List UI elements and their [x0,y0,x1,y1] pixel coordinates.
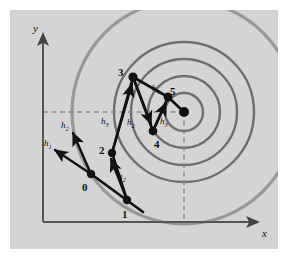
point-marker-4 [149,127,158,136]
step-label-h2-a: h2 [61,121,69,132]
step-label-h2-c: h2 [127,118,135,129]
point-label-1: 1 [122,209,128,220]
figure-container: y x 0 1 2 3 4 5 h1 h2 h2 h3 h2 h4 h3 [0,0,294,262]
y-axis-label: y [33,23,38,34]
point-marker-center [179,107,189,117]
step-label-h3-b: h3 [160,117,168,128]
arrow-h2-from-3 [133,77,151,124]
point-label-3: 3 [118,67,124,78]
point-marker-1 [123,196,131,204]
point-label-0: 0 [82,182,88,193]
point-label-5: 5 [170,86,176,97]
segment-0-1 [91,174,143,212]
point-marker-3 [128,72,137,81]
step-label-h4: h4 [152,84,160,95]
point-marker-2 [108,149,116,157]
point-marker-0 [87,170,95,178]
diagram-svg [0,0,294,262]
step-label-h1-a: h1 [44,139,52,150]
point-label-4: 4 [154,139,160,150]
step-label-h2-b: h2 [118,172,126,183]
point-label-2: 2 [99,145,105,156]
step-label-h3-a: h3 [101,117,109,128]
x-axis-label: x [262,228,267,239]
